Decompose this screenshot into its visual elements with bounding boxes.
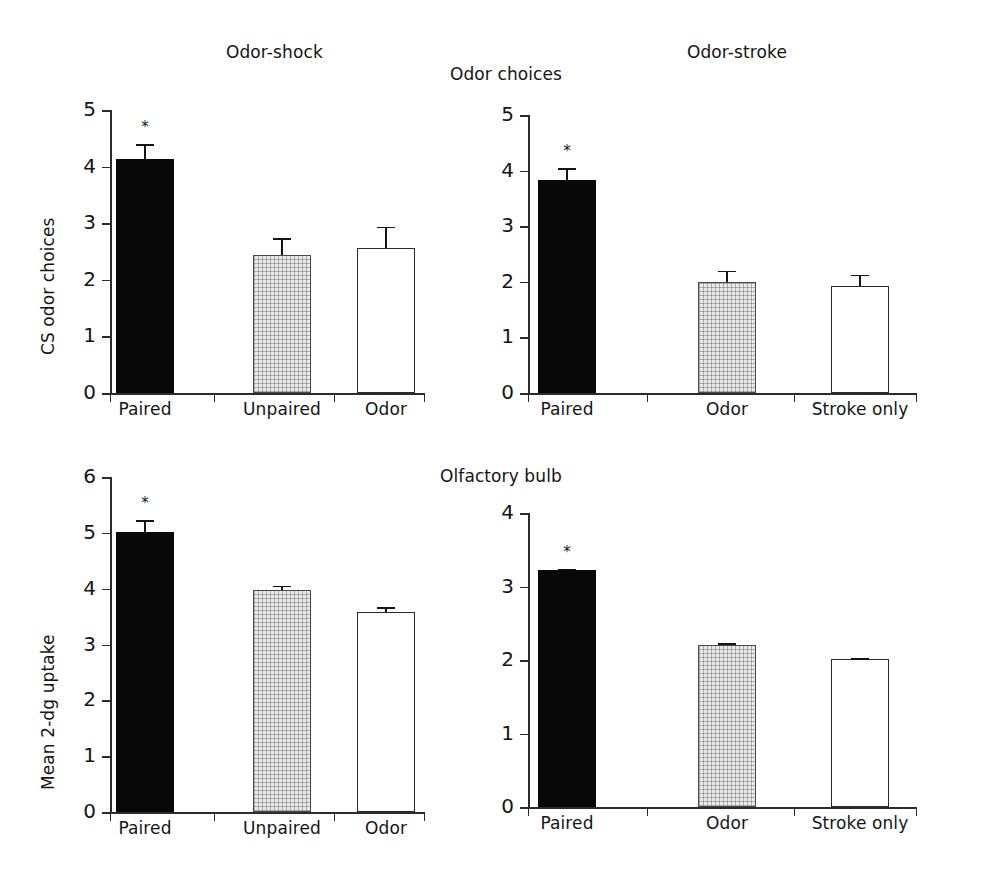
significance-star-odor-shock-bulb-0: *: [133, 496, 157, 511]
y-tick-label-odor-stroke-bulb-3: 3: [482, 576, 514, 596]
y-axis-spine-odor-shock-bulb: [110, 477, 112, 813]
error-bar-cap-odor-stroke-bulb-2: [851, 658, 869, 660]
x-axis-label-odor-shock-bulb-paired: Paired: [65, 818, 225, 838]
error-bar-stem-odor-shock-bulb-0: [144, 520, 146, 532]
y-tick-label-odor-stroke-choices-3: 3: [482, 215, 514, 235]
y-tick-odor-stroke-bulb-2: [520, 660, 528, 662]
y-tick-odor-shock-choices-3: [102, 223, 110, 225]
significance-star-odor-stroke-bulb-0: *: [555, 545, 579, 560]
x-axis-label-odor-shock-bulb-odor: Odor: [306, 818, 466, 838]
x-axis-label-odor-stroke-bulb-stroke-only: Stroke only: [780, 813, 940, 833]
error-bar-cap-odor-shock-choices-1: [273, 238, 291, 240]
y-tick-odor-stroke-bulb-1: [520, 734, 528, 736]
error-bar-cap-odor-shock-bulb-0: [136, 520, 154, 522]
y-tick-label-odor-shock-choices-3: 3: [64, 212, 96, 232]
error-bar-cap-odor-stroke-choices-2: [851, 275, 869, 277]
y-tick-label-odor-stroke-bulb-1: 1: [482, 723, 514, 743]
y-tick-label-odor-stroke-bulb-2: 2: [482, 649, 514, 669]
error-bar-cap-odor-stroke-choices-1: [718, 271, 736, 273]
significance-star-odor-stroke-choices-0: *: [555, 144, 579, 159]
y-axis-label-mean-2dg-uptake: Mean 2-dg uptake: [38, 634, 58, 790]
y-tick-odor-stroke-choices-5: [520, 115, 528, 117]
x-axis-spine-odor-shock-choices: [110, 393, 424, 395]
row-title-odor-choices: Odor choices: [450, 64, 562, 84]
bar-odor-shock-bulb-odor[interactable]: [357, 612, 415, 812]
bar-odor-stroke-choices-stroke-only[interactable]: [831, 286, 889, 393]
y-tick-odor-shock-bulb-2: [102, 700, 110, 702]
y-tick-label-odor-stroke-choices-4: 4: [482, 160, 514, 180]
x-axis-label-odor-stroke-bulb-paired: Paired: [487, 813, 647, 833]
x-axis-label-odor-stroke-choices-paired: Paired: [487, 399, 647, 419]
y-tick-label-odor-stroke-choices-2: 2: [482, 271, 514, 291]
x-axis-spine-odor-stroke-bulb: [528, 807, 916, 809]
error-bar-stem-odor-stroke-choices-1: [726, 271, 728, 282]
y-tick-label-odor-shock-bulb-1: 1: [64, 745, 96, 765]
y-tick-label-odor-shock-choices-2: 2: [64, 269, 96, 289]
error-bar-stem-odor-shock-choices-1: [281, 238, 283, 255]
y-tick-label-odor-stroke-choices-1: 1: [482, 326, 514, 346]
x-axis-spine-odor-shock-bulb: [110, 812, 424, 814]
y-tick-label-odor-shock-choices-4: 4: [64, 156, 96, 176]
error-bar-stem-odor-stroke-choices-2: [859, 275, 861, 287]
error-bar-cap-odor-shock-bulb-1: [273, 586, 291, 588]
significance-star-odor-shock-choices-0: *: [133, 120, 157, 135]
row-title-olfactory-bulb: Olfactory bulb: [440, 466, 562, 486]
y-tick-label-odor-shock-choices-5: 5: [64, 99, 96, 119]
y-tick-label-odor-shock-bulb-2: 2: [64, 689, 96, 709]
error-bar-stem-odor-shock-choices-2: [385, 227, 387, 248]
y-axis-label-cs-odor-choices: CS odor choices: [38, 218, 58, 355]
error-bar-stem-odor-shock-choices-0: [144, 144, 146, 159]
error-bar-cap-odor-shock-choices-2: [377, 227, 395, 229]
y-tick-label-odor-stroke-bulb-4: 4: [482, 502, 514, 522]
bar-odor-shock-choices-unpaired[interactable]: [253, 255, 311, 393]
y-tick-odor-shock-choices-1: [102, 336, 110, 338]
bar-odor-stroke-choices-odor[interactable]: [698, 282, 756, 393]
y-axis-spine-odor-stroke-choices: [528, 115, 530, 394]
bar-odor-stroke-bulb-odor[interactable]: [698, 645, 756, 807]
figure-root: Odor-shock Odor-stroke Odor choices Olfa…: [0, 0, 996, 883]
y-axis-spine-odor-stroke-bulb: [528, 513, 530, 808]
x-axis-label-odor-shock-choices-paired: Paired: [65, 399, 225, 419]
bar-odor-shock-choices-odor[interactable]: [357, 248, 415, 393]
column-title-odor-shock: Odor-shock: [226, 42, 323, 62]
y-axis-spine-odor-shock-choices: [110, 110, 112, 394]
error-bar-cap-odor-shock-choices-0: [136, 144, 154, 146]
error-bar-cap-odor-stroke-choices-0: [558, 168, 576, 170]
y-tick-label-odor-shock-bulb-5: 5: [64, 522, 96, 542]
error-bar-cap-odor-shock-bulb-2: [377, 607, 395, 609]
y-tick-odor-stroke-choices-3: [520, 226, 528, 228]
y-tick-odor-shock-bulb-1: [102, 756, 110, 758]
y-tick-odor-shock-choices-5: [102, 110, 110, 112]
y-tick-label-odor-shock-bulb-3: 3: [64, 634, 96, 654]
y-tick-odor-shock-bulb-4: [102, 589, 110, 591]
bar-odor-shock-bulb-paired[interactable]: [116, 532, 174, 812]
y-tick-odor-stroke-choices-1: [520, 337, 528, 339]
column-title-odor-stroke: Odor-stroke: [687, 42, 787, 62]
x-axis-label-odor-stroke-choices-stroke-only: Stroke only: [780, 399, 940, 419]
y-tick-odor-stroke-choices-2: [520, 282, 528, 284]
bar-odor-stroke-bulb-stroke-only[interactable]: [831, 659, 889, 807]
y-tick-label-odor-stroke-choices-5: 5: [482, 104, 514, 124]
y-tick-odor-stroke-bulb-3: [520, 587, 528, 589]
x-axis-label-odor-shock-choices-odor: Odor: [306, 399, 466, 419]
y-tick-odor-shock-bulb-5: [102, 533, 110, 535]
y-tick-label-odor-shock-choices-1: 1: [64, 325, 96, 345]
bar-odor-shock-bulb-unpaired[interactable]: [253, 590, 311, 812]
y-tick-odor-shock-choices-4: [102, 167, 110, 169]
bar-odor-stroke-choices-paired[interactable]: [538, 180, 596, 393]
y-tick-odor-shock-bulb-6: [102, 477, 110, 479]
y-tick-label-odor-shock-bulb-6: 6: [64, 466, 96, 486]
bar-odor-shock-choices-paired[interactable]: [116, 159, 174, 393]
y-tick-odor-stroke-choices-4: [520, 171, 528, 173]
y-tick-label-odor-shock-bulb-4: 4: [64, 578, 96, 598]
error-bar-cap-odor-stroke-bulb-0: [558, 569, 576, 571]
y-tick-odor-shock-bulb-3: [102, 645, 110, 647]
y-tick-odor-stroke-bulb-4: [520, 513, 528, 515]
bar-odor-stroke-bulb-paired[interactable]: [538, 570, 596, 807]
error-bar-cap-odor-stroke-bulb-1: [718, 643, 736, 645]
x-axis-spine-odor-stroke-choices: [528, 393, 916, 395]
error-bar-stem-odor-stroke-choices-0: [566, 168, 568, 180]
y-tick-odor-shock-choices-2: [102, 280, 110, 282]
